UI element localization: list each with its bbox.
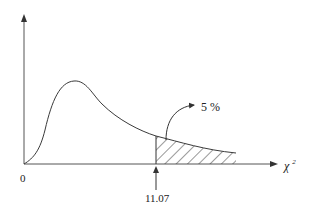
critical-pointer-arrow-icon: [153, 166, 159, 173]
origin-label: 0: [20, 172, 26, 184]
critical-value-label: 11.07: [145, 192, 170, 204]
x-axis-label-sup: 2: [292, 158, 296, 166]
x-axis-label: χ 2: [283, 158, 296, 173]
x-axis-arrow-icon: [270, 161, 278, 167]
y-axis-arrow-icon: [21, 14, 27, 22]
x-axis-label-chi: χ: [283, 159, 290, 173]
annotation-arrow: [166, 105, 194, 140]
tail-percent-label: 5 %: [201, 100, 220, 114]
chi-square-chart: 5 % 0 11.07 χ 2: [0, 0, 310, 212]
shaded-tail-region: [156, 136, 236, 164]
